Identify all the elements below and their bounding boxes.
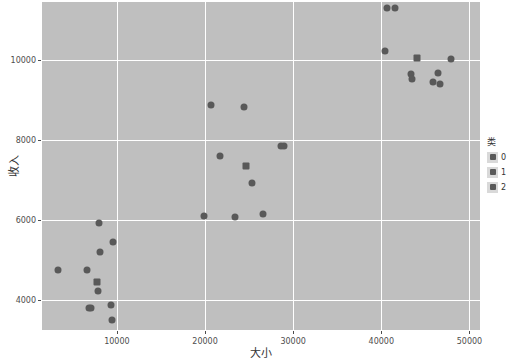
legend-item[interactable]: 1 <box>487 166 515 178</box>
x-tick-mark <box>469 331 470 334</box>
y-axis-title: 收入 <box>5 155 21 177</box>
x-tick-mark <box>381 331 382 334</box>
legend-items: 012 <box>487 151 515 193</box>
legend-key-box <box>487 182 498 193</box>
legend-marker-icon <box>490 169 496 175</box>
legend: 类 012 <box>487 137 515 196</box>
x-tick-mark <box>117 331 118 334</box>
legend-marker-icon <box>490 184 496 190</box>
x-axis-title: 大小 <box>42 344 480 360</box>
legend-item-label: 0 <box>501 152 506 163</box>
legend-key-box <box>487 152 498 163</box>
x-axis-ticks: 1000020000300004000050000 <box>0 0 515 364</box>
x-tick-mark <box>293 331 294 334</box>
legend-item-label: 1 <box>501 167 506 178</box>
scatter-plot-figure: 40006000800010000 1000020000300004000050… <box>0 0 515 364</box>
x-tick-mark <box>205 331 206 334</box>
legend-title: 类 <box>487 137 515 147</box>
legend-item-label: 2 <box>501 182 506 193</box>
legend-marker-icon <box>490 154 496 160</box>
legend-key-box <box>487 167 498 178</box>
legend-item[interactable]: 0 <box>487 151 515 163</box>
legend-item[interactable]: 2 <box>487 181 515 193</box>
